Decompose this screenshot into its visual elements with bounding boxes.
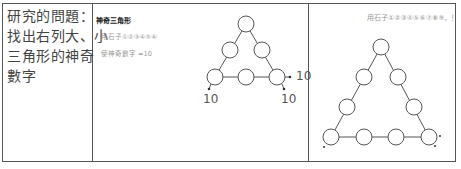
side-sum-label: 10 xyxy=(281,92,296,106)
side-sum-label: 10 xyxy=(296,69,311,83)
stone-slot xyxy=(356,69,372,85)
stone-slot xyxy=(421,129,437,145)
stone-slot xyxy=(390,69,406,85)
stone-slot xyxy=(269,69,285,85)
stone-slot xyxy=(373,39,389,55)
big-triangle-diagram xyxy=(323,39,437,145)
small-triangle-diagram xyxy=(207,16,290,89)
stone-slot xyxy=(356,129,372,145)
stone-slot xyxy=(406,99,422,115)
stone-slot xyxy=(238,69,254,85)
stone-slot xyxy=(339,99,355,115)
stone-slot xyxy=(222,42,238,58)
stone-slot xyxy=(323,129,339,145)
triangle-diagrams xyxy=(0,0,461,169)
side-sum-label: 10 xyxy=(203,92,218,106)
stone-slot xyxy=(388,129,404,145)
stone-slot xyxy=(238,16,254,32)
stone-slot xyxy=(207,69,223,85)
stone-slot xyxy=(254,42,270,58)
